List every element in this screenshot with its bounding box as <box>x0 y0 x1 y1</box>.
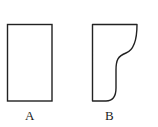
diagram-canvas <box>0 0 158 127</box>
shape-a-rectangle <box>8 25 53 102</box>
shape-a-label: A <box>25 109 34 122</box>
shape-b-profile <box>93 25 138 102</box>
shape-b-label: B <box>105 109 114 122</box>
